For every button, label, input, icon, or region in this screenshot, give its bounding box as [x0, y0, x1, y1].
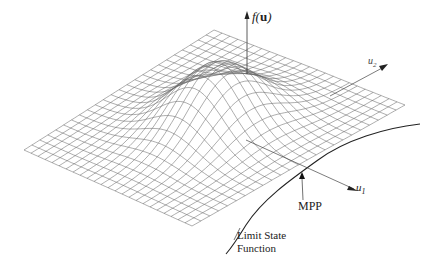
- u2-axis: [330, 64, 388, 96]
- mpp-pointer: [299, 172, 305, 200]
- label-f-of-u: f(u): [252, 9, 272, 25]
- arrow-up-icon: [245, 11, 250, 19]
- probability-density-mesh: [24, 30, 405, 226]
- label-mpp: MPP: [298, 199, 322, 214]
- arrow-u2-icon: [379, 64, 388, 71]
- limit-state-line-2: Function: [237, 242, 286, 255]
- label-u1: u1: [356, 181, 366, 196]
- label-u2: u2: [368, 55, 377, 69]
- limit-state-line-1: Limit State: [237, 229, 286, 242]
- pdf-surface-figure: [0, 0, 440, 267]
- label-limit-state-function: Limit State Function: [237, 229, 286, 255]
